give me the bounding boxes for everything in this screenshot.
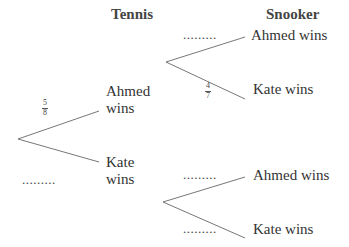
probability-blank-a-ahmed[interactable]: ......... — [183, 27, 217, 43]
heading-tennis: Tennis — [111, 6, 153, 23]
fraction-denominator: 8 — [43, 109, 47, 117]
outcome-tennis-kate: Kate wins — [106, 154, 134, 188]
heading-snooker: Snooker — [266, 6, 319, 23]
outcome-a-ahmed: Ahmed wins — [251, 27, 327, 44]
outcome-line1: Kate — [106, 154, 134, 171]
branch-tennis-kate — [18, 139, 99, 162]
outcome-line2: wins — [106, 100, 150, 117]
probability-a-kate: 4 7 — [205, 82, 211, 100]
probability-blank-k-kate[interactable]: ......... — [183, 221, 217, 237]
outcome-k-kate: Kate wins — [253, 221, 313, 238]
outcome-k-ahmed: Ahmed wins — [253, 167, 329, 184]
outcome-tennis-ahmed: Ahmed wins — [106, 83, 150, 117]
fraction-numerator: 5 — [43, 99, 47, 107]
fraction-numerator: 4 — [206, 82, 210, 90]
outcome-line1: Ahmed — [106, 83, 150, 100]
branch-tennis-ahmed — [18, 111, 99, 139]
probability-blank-k-ahmed[interactable]: ......... — [183, 167, 217, 183]
fraction-denominator: 7 — [206, 92, 210, 100]
probability-blank-tennis-kate[interactable]: ......... — [22, 172, 56, 188]
outcome-line2: wins — [106, 171, 134, 188]
outcome-a-kate: Kate wins — [253, 81, 313, 98]
probability-tennis-ahmed: 5 8 — [42, 99, 48, 117]
